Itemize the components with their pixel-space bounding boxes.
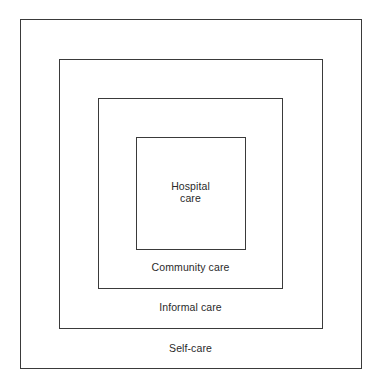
hospital-care-label-line-1: Hospital (0, 180, 381, 192)
self-care-label: Self-care (0, 342, 381, 354)
hospital-care-label: Hospital care (0, 180, 381, 204)
hospital-care-label-line-2: care (0, 192, 381, 204)
community-care-label: Community care (0, 261, 381, 273)
informal-care-label: Informal care (0, 301, 381, 313)
